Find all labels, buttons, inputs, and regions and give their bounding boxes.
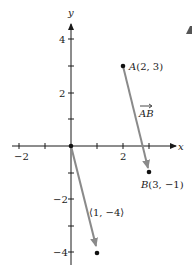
y-tick-label-neg2: −2 bbox=[53, 194, 68, 205]
point-a bbox=[121, 64, 126, 69]
point-origin bbox=[69, 144, 74, 149]
y-axis-label: y bbox=[67, 7, 74, 18]
y-tick-label-2: 2 bbox=[59, 88, 65, 99]
vector-ab-label: AB bbox=[138, 104, 154, 119]
vector-position-label: ⟨1, −4⟩ bbox=[89, 207, 124, 218]
x-axis-label: x bbox=[178, 141, 184, 152]
y-tick-label-4: 4 bbox=[59, 34, 65, 45]
x-axis: −2 2 x bbox=[12, 141, 184, 162]
point-a-label: A(2, 3) bbox=[128, 61, 163, 72]
coordinate-plane: −2 2 x 4 2 −2 −4 y A(2, 3) B(3, −1) AB bbox=[0, 0, 192, 275]
point-b bbox=[147, 170, 152, 175]
x-tick-label-neg2: −2 bbox=[14, 151, 29, 162]
partial-glyph bbox=[186, 26, 192, 34]
y-tick-label-neg4: −4 bbox=[53, 247, 68, 258]
point-b-label: B(3, −1) bbox=[140, 179, 184, 190]
vector-position bbox=[71, 146, 96, 246]
svg-text:AB: AB bbox=[138, 108, 154, 119]
point-terminal bbox=[95, 251, 100, 256]
y-axis: 4 2 −2 −4 y bbox=[53, 7, 74, 265]
x-tick-label-2: 2 bbox=[120, 151, 126, 162]
